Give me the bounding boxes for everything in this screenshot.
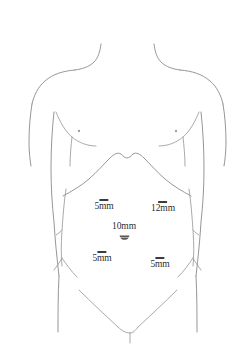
- port-label-umbilical: 10mm: [112, 222, 136, 232]
- port-site-lower-right[interactable]: 5mm: [150, 257, 169, 269]
- port-site-upper-right[interactable]: 12mm: [151, 201, 175, 213]
- port-site-upper-left[interactable]: 5mm: [94, 199, 113, 211]
- port-placement-diagram: 5mm 12mm 10mm 5mm 5mm: [0, 0, 248, 356]
- port-label-lower-left: 5mm: [92, 254, 111, 264]
- port-marker-layer: 5mm 12mm 10mm 5mm 5mm: [0, 0, 248, 356]
- port-label-lower-right: 5mm: [150, 260, 169, 270]
- port-label-upper-right: 12mm: [151, 204, 175, 214]
- umbilicus-marker: [119, 235, 130, 242]
- port-site-umbilical[interactable]: 10mm: [112, 222, 136, 232]
- port-site-lower-left[interactable]: 5mm: [92, 251, 111, 263]
- port-label-upper-left: 5mm: [94, 202, 113, 212]
